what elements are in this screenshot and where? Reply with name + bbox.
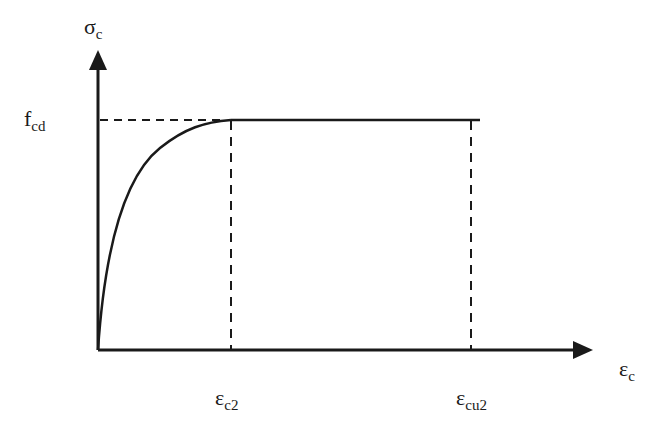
- ecu2-label: εcu2: [456, 387, 487, 409]
- x-axis-arrow-icon: [573, 341, 593, 359]
- ecu2-symbol: ε: [456, 385, 465, 410]
- x-axis-subscript: c: [628, 368, 635, 384]
- y-axis-arrow-icon: [89, 50, 107, 70]
- y-axis-label: σc: [84, 16, 103, 38]
- ecu2-subscript: cu2: [465, 397, 487, 413]
- fcd-label: fcd: [24, 108, 46, 130]
- fcd-subscript: cd: [31, 118, 45, 134]
- ec2-label: εc2: [215, 387, 238, 409]
- ec2-symbol: ε: [215, 385, 224, 410]
- parabola-curve: [98, 120, 231, 350]
- x-axis-label: εc: [619, 358, 635, 380]
- y-axis-symbol: σ: [84, 14, 96, 39]
- x-axis-symbol: ε: [619, 356, 628, 381]
- ec2-subscript: c2: [224, 397, 238, 413]
- y-axis-subscript: c: [96, 26, 103, 42]
- stress-strain-plot: [0, 0, 663, 430]
